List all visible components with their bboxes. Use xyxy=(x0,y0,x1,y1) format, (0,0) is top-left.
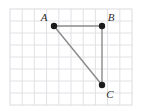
vertex-label-b: B xyxy=(108,11,115,23)
vertex-point-a xyxy=(51,23,57,29)
vertex-label-a: A xyxy=(40,11,48,23)
vertex-point-b xyxy=(99,23,105,29)
vertex-label-c: C xyxy=(106,88,114,100)
triangle-figure: ABC xyxy=(0,0,142,111)
figure-container: ABC xyxy=(0,0,142,111)
vertex-point-c xyxy=(99,82,105,88)
